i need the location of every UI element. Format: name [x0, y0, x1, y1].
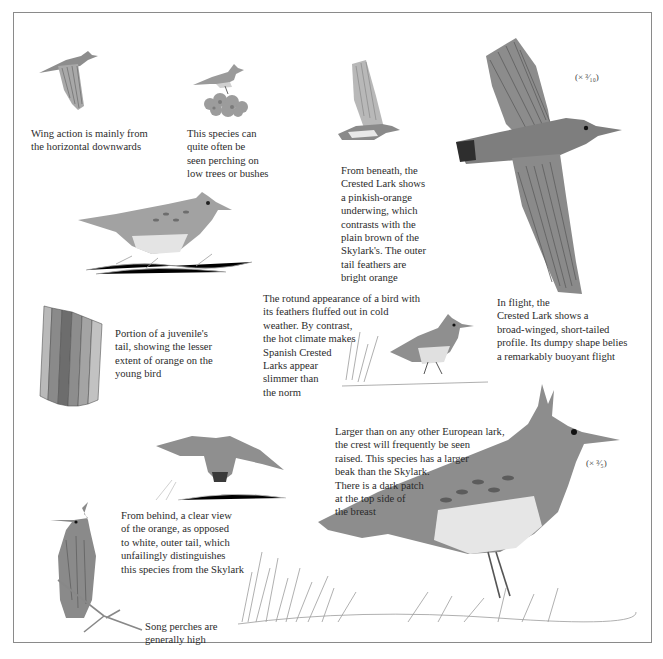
bird-large-flight-illustration [456, 36, 626, 301]
bird-perched-bush-illustration [190, 52, 265, 122]
caption-from-behind: From behind, a clear view of the orange,… [121, 509, 244, 576]
caption-in-flight: In flight, the Crested Lark shows a broa… [497, 296, 627, 363]
caption-juvenile-tail: Portion of a juvenile's tail, showing th… [115, 327, 213, 381]
caption-rotund: The rotund appearance of a bird with its… [263, 292, 420, 399]
caption-perching: This species can quite often be seen per… [187, 127, 269, 181]
scale-label-flight: (× ³⁄₁₀) [575, 72, 599, 82]
caption-beneath: From beneath, the Crested Lark shows a p… [341, 164, 426, 285]
scale-label-standing: (× ³⁄₅) [586, 458, 607, 468]
bird-standing-side-illustration [76, 190, 256, 280]
caption-song-perches: Song perches are generally high [145, 620, 217, 647]
bird-flying-side-illustration [36, 46, 106, 116]
juvenile-tail-illustration [38, 300, 110, 410]
bird-underside-illustration [334, 56, 406, 146]
caption-wing-action: Wing action is mainly from the horizonta… [31, 127, 148, 154]
caption-crest: Larger than on any other European lark, … [335, 425, 505, 519]
